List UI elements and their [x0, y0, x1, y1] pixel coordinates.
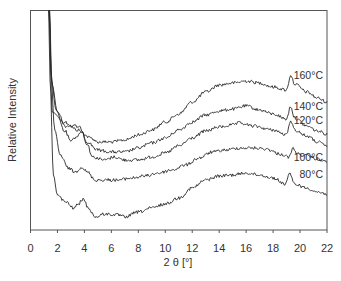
series-line-80c [49, 11, 327, 219]
y-axis-title: Relative Intensity [6, 78, 18, 162]
series-label: 120°C [294, 114, 324, 126]
x-tick-label: 2 [54, 242, 60, 254]
x-axis-title: 2 θ [°] [164, 256, 193, 268]
series-label: 160°C [294, 69, 324, 81]
series-label: 80°C [300, 168, 324, 180]
x-tick-label: 22 [321, 242, 333, 254]
x-tick-label: 4 [81, 242, 87, 254]
x-axis-ticks: 0246810121416182022 [27, 230, 333, 254]
x-tick-label: 16 [240, 242, 252, 254]
x-tick-label: 18 [267, 242, 279, 254]
series-curves [49, 11, 327, 219]
x-tick-label: 20 [294, 242, 306, 254]
series-label: 100°C [294, 151, 324, 163]
x-tick-label: 0 [27, 242, 33, 254]
x-tick-label: 6 [108, 242, 114, 254]
series-labels: 160°C140°C120°C100°C80°C [294, 69, 324, 180]
xrd-chart: 0246810121416182022 160°C140°C120°C100°C… [0, 0, 341, 281]
series-label: 140°C [294, 100, 324, 112]
x-tick-label: 14 [213, 242, 225, 254]
series-line-140c [49, 11, 327, 154]
x-tick-label: 8 [135, 242, 141, 254]
series-line-100c [49, 11, 327, 182]
x-tick-label: 10 [159, 242, 171, 254]
series-line-120c [49, 11, 327, 162]
x-tick-label: 12 [186, 242, 198, 254]
